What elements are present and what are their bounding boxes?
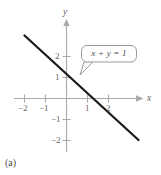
x-axis-label: x bbox=[147, 94, 151, 104]
panel-caption: (a) bbox=[5, 158, 16, 168]
y-tick-label-neg1: −1 bbox=[51, 115, 61, 124]
figure-panel: −2 −1 1 2 2 1 −1 −2 x y x + y = 1 (a) bbox=[0, 0, 161, 175]
x-tick-label-neg2: −2 bbox=[18, 104, 28, 113]
y-tick-label-neg2: −2 bbox=[51, 136, 61, 145]
x-tick-label-neg1: −1 bbox=[39, 104, 49, 113]
x-tick-label-2: 2 bbox=[106, 104, 111, 113]
callout-tail bbox=[80, 62, 93, 75]
coordinate-plane-graphic bbox=[0, 0, 161, 175]
equation-annotation-label: x + y = 1 bbox=[86, 49, 132, 58]
x-tick-label-1: 1 bbox=[85, 104, 90, 113]
y-tick-label-2: 2 bbox=[55, 52, 60, 61]
y-axis-label: y bbox=[63, 8, 67, 18]
x-axis-arrowhead bbox=[136, 95, 144, 101]
y-tick-label-1: 1 bbox=[55, 73, 60, 82]
y-axis-arrowhead bbox=[63, 19, 69, 26]
